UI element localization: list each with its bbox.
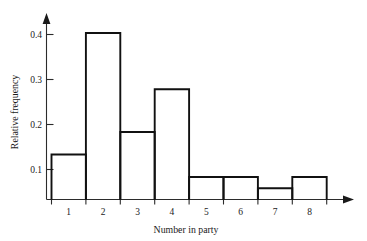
x-tick-label-1: 2	[101, 207, 106, 217]
x-axis-title: Number in party	[154, 224, 219, 235]
histogram-chart: 0.1 0.2 0.3 0.4	[0, 0, 367, 241]
chart-canvas: 0.1 0.2 0.3 0.4	[0, 0, 367, 241]
x-tick-label-7: 8	[307, 207, 312, 217]
y-tick-label-1: 0.2	[30, 120, 42, 130]
y-tick-label-3: 0.4	[30, 30, 42, 40]
x-tick-label-2: 3	[135, 207, 140, 217]
x-tick-label-4: 5	[204, 207, 209, 217]
y-tick-label-0: 0.1	[30, 165, 42, 175]
x-tick-label-5: 6	[238, 207, 243, 217]
x-tick-label-0: 1	[66, 207, 71, 217]
y-axis-title: Relative frequency	[9, 75, 20, 149]
x-tick-label-3: 4	[170, 207, 175, 217]
y-tick-label-2: 0.3	[30, 75, 42, 85]
x-tick-label-6: 7	[273, 207, 278, 217]
chart-background	[0, 0, 367, 241]
